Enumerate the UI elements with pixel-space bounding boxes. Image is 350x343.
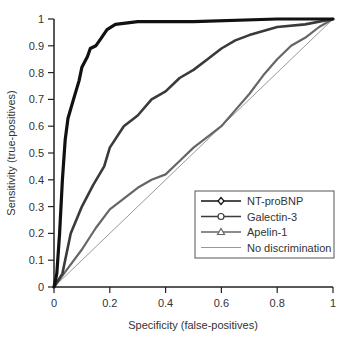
legend-label: No discrimination	[247, 242, 331, 254]
x-tick-label: 0	[51, 297, 57, 309]
x-tick-label: 0.8	[270, 297, 285, 309]
legend-label: Apelin-1	[247, 226, 287, 238]
y-tick-label: 0	[38, 281, 44, 293]
roc-chart-svg: 00.20.40.60.8100.10.20.30.40.50.60.70.80…	[0, 0, 350, 343]
legend-label: Galectin-3	[247, 211, 297, 223]
y-tick-label: 0.8	[29, 67, 44, 79]
x-tick-label: 1	[330, 297, 336, 309]
y-tick-label: 0.5	[29, 147, 44, 159]
axes: 00.20.40.60.8100.10.20.30.40.50.60.70.80…	[29, 13, 336, 309]
y-tick-label: 0.1	[29, 254, 44, 266]
circle-marker-icon	[218, 214, 224, 220]
legend: NT-proBNPGalectin-3Apelin-1No discrimina…	[195, 191, 334, 258]
x-tick-label: 0.2	[102, 297, 117, 309]
roc-chart: 00.20.40.60.8100.10.20.30.40.50.60.70.80…	[0, 0, 350, 343]
y-tick-label: 0.6	[29, 120, 44, 132]
y-tick-label: 0.9	[29, 40, 44, 52]
y-tick-label: 0.7	[29, 93, 44, 105]
y-tick-label: 0.4	[29, 174, 44, 186]
x-tick-label: 0.4	[158, 297, 173, 309]
x-tick-label: 0.6	[214, 297, 229, 309]
y-axis-label: Sensitivity (true-positives)	[5, 90, 17, 215]
y-tick-label: 1	[38, 13, 44, 25]
legend-label: NT-proBNP	[247, 195, 303, 207]
y-tick-label: 0.2	[29, 227, 44, 239]
x-axis-label: Specificity (false-positives)	[128, 319, 258, 331]
y-tick-label: 0.3	[29, 201, 44, 213]
